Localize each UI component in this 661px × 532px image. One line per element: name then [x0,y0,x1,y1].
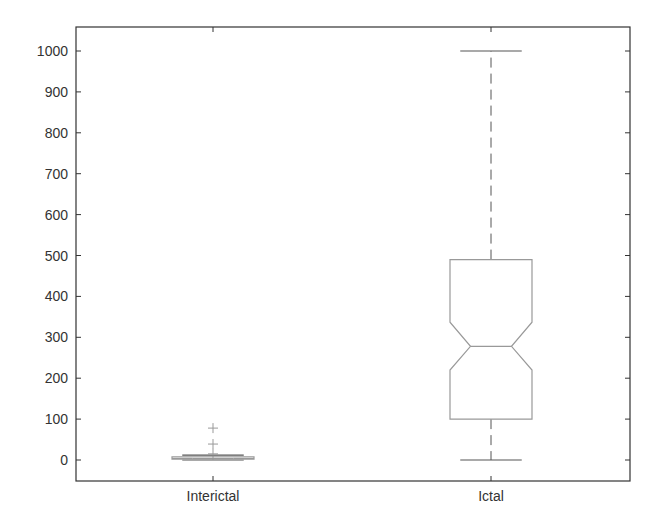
boxes [172,51,532,460]
box-ictal [450,51,532,460]
box-interictal [172,423,254,460]
plot-frame [76,27,630,481]
y-tick-label: 400 [45,288,69,304]
y-tick-label: 900 [45,84,69,100]
y-axis: 01002003004005006007008009001000 [37,43,630,468]
y-tick-label: 800 [45,125,69,141]
x-category-label: Interictal [187,488,240,504]
notched-box [450,260,532,420]
y-tick-label: 100 [45,411,69,427]
plot-area [76,27,630,481]
x-category-label: Ictal [478,488,504,504]
y-tick-label: 700 [45,166,69,182]
y-tick-label: 600 [45,207,69,223]
y-tick-label: 300 [45,329,69,345]
y-tick-label: 0 [60,452,68,468]
y-tick-label: 200 [45,370,69,386]
y-tick-label: 500 [45,248,69,264]
y-tick-label: 1000 [37,43,68,59]
boxplot-chart: 01002003004005006007008009001000 Interic… [0,0,661,532]
